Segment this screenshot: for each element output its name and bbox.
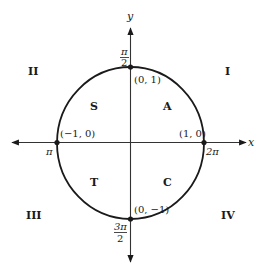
astc-t: T (90, 176, 99, 189)
astc-c: C (163, 176, 172, 189)
point-bottom (128, 216, 133, 221)
quadrant-label-iv: IV (221, 209, 235, 222)
angle-left: π (45, 146, 53, 157)
coord-top: (0, 1) (134, 74, 161, 85)
angle-top-denominator: 2 (121, 57, 127, 68)
point-left (54, 140, 59, 145)
angle-right: 2π (205, 146, 219, 157)
quadrant-label-iii: III (26, 209, 41, 222)
quadrant-label-i: I (225, 65, 230, 78)
unit-circle-diagram: y x II I III IV S A T C (0, 1) (−1, 0) (… (0, 0, 261, 268)
angle-top-numerator: π (120, 46, 128, 57)
astc-a: A (162, 100, 172, 113)
point-top (128, 64, 133, 69)
angle-bottom-numerator: 3π (114, 221, 127, 232)
astc-s: S (90, 100, 98, 113)
quadrant-label-ii: II (28, 65, 38, 78)
angle-bottom-denominator: 2 (117, 233, 123, 244)
y-axis-label: y (126, 10, 134, 23)
x-axis-label: x (248, 136, 255, 149)
coord-bottom: (0, −1) (134, 204, 169, 215)
point-right (201, 140, 206, 145)
coord-right: (1, 0) (179, 128, 206, 139)
coord-left: (−1, 0) (60, 128, 95, 139)
